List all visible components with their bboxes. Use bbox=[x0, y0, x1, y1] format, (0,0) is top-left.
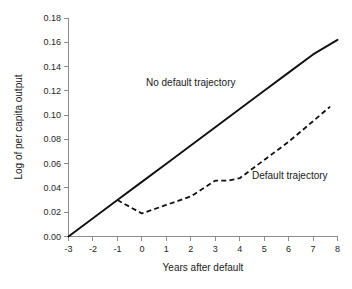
x-tick-label: 3 bbox=[213, 244, 218, 254]
y-tick-label: 0.02 bbox=[43, 207, 61, 217]
x-tick-label: 0 bbox=[139, 244, 144, 254]
x-tick-label: 7 bbox=[311, 244, 316, 254]
y-tick-label: 0.00 bbox=[43, 232, 61, 242]
y-axis-tick-labels: 0.00 0.02 0.04 0.06 0.08 0.10 0.12 0.14 … bbox=[43, 13, 61, 242]
x-tick-label: -3 bbox=[64, 244, 72, 254]
x-tick-label: 5 bbox=[262, 244, 267, 254]
annotation-default-trajectory: Default trajectory bbox=[252, 170, 328, 181]
x-tick-label: 1 bbox=[164, 244, 169, 254]
chart-figure: 0.00 0.02 0.04 0.06 0.08 0.10 0.12 0.14 … bbox=[0, 0, 352, 289]
x-tick-label: -2 bbox=[89, 244, 97, 254]
x-tick-label: 4 bbox=[237, 244, 242, 254]
x-axis-title: Years after default bbox=[163, 262, 244, 273]
series-no-default-trajectory bbox=[69, 40, 338, 237]
line-chart: 0.00 0.02 0.04 0.06 0.08 0.10 0.12 0.14 … bbox=[0, 0, 352, 289]
x-tick-label: 2 bbox=[188, 244, 193, 254]
x-tick-label: 8 bbox=[335, 244, 340, 254]
y-tick-label: 0.18 bbox=[43, 13, 61, 23]
y-tick-label: 0.12 bbox=[43, 86, 61, 96]
y-axis-title: Log of per capita output bbox=[13, 74, 24, 179]
y-tick-label: 0.04 bbox=[43, 183, 61, 193]
y-tick-label: 0.06 bbox=[43, 159, 61, 169]
y-tick-label: 0.14 bbox=[43, 62, 61, 72]
x-tick-label: -1 bbox=[113, 244, 121, 254]
y-tick-label: 0.16 bbox=[43, 37, 61, 47]
x-tick-label: 6 bbox=[286, 244, 291, 254]
y-tick-label: 0.08 bbox=[43, 134, 61, 144]
series-default-trajectory bbox=[117, 107, 330, 214]
x-axis-tick-labels: -3 -2 -1 0 1 2 3 4 5 6 7 8 bbox=[64, 244, 340, 254]
annotation-no-default-trajectory: No default trajectory bbox=[146, 77, 236, 88]
y-axis-ticks bbox=[64, 18, 69, 237]
y-tick-label: 0.10 bbox=[43, 110, 61, 120]
x-axis-ticks bbox=[69, 237, 338, 242]
